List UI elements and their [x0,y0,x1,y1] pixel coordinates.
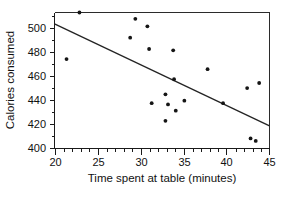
x-axis-tick-labels: 20 25 30 35 40 45 [49,156,275,168]
data-point [147,47,151,51]
data-point [166,103,170,107]
y-axis-title: Calories consumed [4,31,16,129]
data-point [249,137,253,141]
y-tick-label-460: 460 [28,70,46,82]
data-point [206,67,210,71]
data-point [257,81,261,85]
y-tick-label-480: 480 [28,46,46,58]
data-point [174,109,178,113]
y-axis-tick-labels: 400 420 440 460 480 500 [28,22,46,154]
data-point [171,48,175,52]
data-point [164,119,168,123]
regression-trend-line [55,24,270,126]
data-point [164,92,168,96]
x-tick-label-40: 40 [220,156,232,168]
x-tick-label-30: 30 [135,156,147,168]
y-tick-label-420: 420 [28,118,46,130]
x-axis-title: Time spent at table (minutes) [88,172,237,184]
data-point [221,101,225,105]
x-tick-label-35: 35 [178,156,190,168]
y-tick-label-440: 440 [28,94,46,106]
data-point [172,77,176,81]
data-points-layer [65,11,261,143]
calories-vs-time-scatter-chart: 400 420 440 460 480 500 [0,0,293,199]
x-tick-label-25: 25 [92,156,104,168]
data-point [65,57,69,61]
y-tick-label-500: 500 [28,22,46,34]
plot-frame [55,13,270,149]
scatter-plot-figure: 400 420 440 460 480 500 [0,0,293,199]
y-tick-label-400: 400 [28,142,46,154]
data-point [245,86,249,90]
x-tick-label-20: 20 [49,156,61,168]
data-point [145,24,149,28]
data-point [254,139,258,143]
data-point [133,17,137,21]
data-point [150,101,154,105]
y-axis-ticks [50,17,55,149]
data-point [78,11,82,15]
data-point [128,36,132,40]
data-point [182,99,186,103]
x-axis-ticks [56,149,270,155]
x-tick-label-45: 45 [263,156,275,168]
